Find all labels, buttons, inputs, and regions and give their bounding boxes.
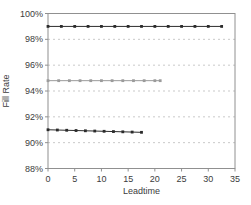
- data-point-marker: [113, 25, 116, 28]
- data-point-marker: [112, 130, 115, 133]
- data-point-marker: [79, 79, 82, 82]
- data-point-marker: [167, 25, 170, 28]
- x-tick-label: 30: [203, 174, 213, 184]
- data-point-marker: [56, 129, 59, 132]
- fill-rate-vs-leadtime-chart: 88%90%92%94%96%98%100%05101520253035: [0, 0, 251, 205]
- data-point-marker: [47, 25, 50, 28]
- x-tick-label: 15: [123, 174, 133, 184]
- series-fill-rate-high: [47, 25, 223, 28]
- data-point-marker: [159, 79, 162, 82]
- data-point-marker: [57, 79, 60, 82]
- data-point-marker: [140, 25, 143, 28]
- x-tick-label: 35: [230, 174, 240, 184]
- data-point-marker: [84, 129, 87, 132]
- y-axis-title: Fill Rate: [1, 61, 11, 121]
- y-tick-label: 90%: [25, 138, 43, 148]
- x-tick-label: 0: [45, 174, 50, 184]
- data-point-marker: [131, 131, 134, 134]
- x-axis-title: Leadtime: [48, 186, 235, 196]
- x-tick-label: 25: [177, 174, 187, 184]
- data-point-marker: [93, 130, 96, 133]
- y-tick-label: 92%: [25, 112, 43, 122]
- data-point-marker: [73, 25, 76, 28]
- data-point-marker: [180, 25, 183, 28]
- x-tick-label: 10: [96, 174, 106, 184]
- data-point-marker: [220, 25, 223, 28]
- data-point-marker: [153, 79, 156, 82]
- x-tick-label: 20: [150, 174, 160, 184]
- data-point-marker: [87, 25, 90, 28]
- data-point-marker: [153, 25, 156, 28]
- data-point-marker: [143, 79, 146, 82]
- series-fill-rate-mid: [47, 79, 162, 82]
- data-point-marker: [121, 130, 124, 133]
- series-fill-rate-low: [47, 128, 143, 133]
- data-point-marker: [65, 129, 68, 132]
- data-point-marker: [132, 79, 135, 82]
- plot-frame: [48, 14, 235, 169]
- data-point-marker: [75, 129, 78, 132]
- y-tick-label: 88%: [25, 164, 43, 174]
- data-point-marker: [100, 79, 103, 82]
- data-point-marker: [127, 25, 130, 28]
- data-point-marker: [60, 25, 63, 28]
- data-point-marker: [89, 79, 92, 82]
- data-point-marker: [47, 79, 50, 82]
- fill-rate-vs-leadtime-figure: 88%90%92%94%96%98%100%05101520253035 Lea…: [0, 0, 251, 205]
- data-point-marker: [111, 79, 114, 82]
- y-tick-label: 98%: [25, 34, 43, 44]
- data-point-marker: [68, 79, 71, 82]
- data-point-marker: [140, 131, 143, 134]
- data-point-marker: [121, 79, 124, 82]
- data-point-marker: [207, 25, 210, 28]
- y-tick-label: 94%: [25, 86, 43, 96]
- data-point-marker: [194, 25, 197, 28]
- x-tick-label: 5: [72, 174, 77, 184]
- data-point-marker: [100, 25, 103, 28]
- y-tick-label: 96%: [25, 60, 43, 70]
- data-point-marker: [47, 128, 50, 131]
- data-point-marker: [103, 130, 106, 133]
- y-tick-label: 100%: [20, 9, 43, 19]
